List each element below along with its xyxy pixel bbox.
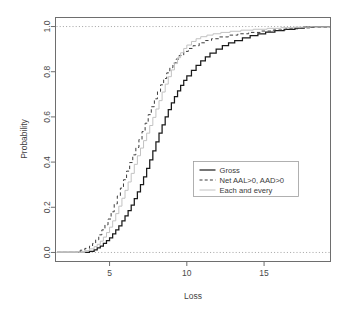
y-tick-label-4: 0.8: [42, 66, 52, 78]
y-axis-title: Probability: [19, 118, 29, 158]
y-tick-label-0: 0.0: [42, 246, 52, 258]
x-tick-label-1: 10: [182, 268, 192, 278]
legend[interactable]: GrossNet AAL>0, AAD>0Each and every: [194, 162, 299, 197]
chart-figure: 51015 0.00.20.40.60.81.0 Loss Probabilit…: [0, 0, 350, 317]
x-tick-label-2: 15: [259, 268, 269, 278]
legend-label-2[interactable]: Each and every: [220, 186, 273, 195]
legend-label-0[interactable]: Gross: [220, 166, 240, 175]
y-tick-label-5: 1.0: [42, 20, 52, 32]
x-axis-title: Loss: [184, 291, 202, 301]
x-tick-label-0: 5: [107, 268, 112, 278]
y-tick-label-1: 0.2: [42, 201, 52, 213]
y-tick-label-2: 0.4: [42, 156, 52, 168]
legend-label-1[interactable]: Net AAL>0, AAD>0: [220, 176, 285, 185]
plot-background: [0, 0, 350, 317]
y-tick-label-3: 0.6: [42, 111, 52, 123]
cdf-plot: 51015 0.00.20.40.60.81.0 Loss Probabilit…: [0, 0, 350, 317]
